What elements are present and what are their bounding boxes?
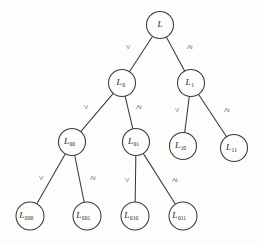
tree-node-l0: L0 (109, 70, 136, 97)
edge-label-l0-l00: < (81, 104, 91, 109)
edge-label-l1-l11: ≥ (221, 107, 231, 112)
tree-node-l: L (147, 12, 174, 39)
tree-node-l11: L11 (221, 135, 248, 162)
tree-edge-l1-l10 (185, 96, 190, 132)
tree-edge-l1-l11 (198, 94, 226, 136)
tree-node-l01: L01 (123, 129, 150, 156)
tree-edge-l0-l00 (81, 93, 114, 131)
edge-label-l0-l01: ≥ (133, 104, 143, 109)
edge-label-l01-l011: ≥ (169, 177, 179, 182)
tree-edge-l0-l01 (125, 96, 133, 129)
tree-node-l001: L001 (73, 202, 101, 230)
binary-tree-diagram: LL0L1L00L01L10L11L000L001L010L011 <≥<≥<≥… (0, 0, 262, 244)
tree-edge-l01-l010 (135, 156, 136, 203)
node-label-l: L (156, 19, 162, 29)
tree-node-l1: L1 (178, 70, 205, 97)
edge-label-l00-l001: ≥ (87, 175, 97, 180)
tree-edge-l-l0 (129, 36, 152, 71)
tree-node-l10: L10 (170, 133, 197, 160)
node-group: LL0L1L00L01L10L11L000L001L010L011 (16, 12, 248, 231)
edge-label-l-l1: ≥ (184, 44, 194, 49)
edge-label-l-l0: < (123, 44, 133, 49)
tree-edge-l00-l001 (75, 155, 85, 202)
tree-edge-l-l1 (166, 37, 184, 71)
tree-canvas: LL0L1L00L01L10L11L000L001L010L011 <≥<≥<≥… (0, 0, 262, 244)
tree-node-l00: L00 (59, 129, 86, 156)
edge-label-l00-l000: < (36, 175, 46, 180)
tree-node-l000: L000 (16, 202, 44, 230)
tree-node-l010: L010 (121, 202, 149, 230)
tree-node-l011: L011 (169, 202, 197, 230)
edge-label-l01-l010: < (122, 177, 132, 182)
edge-label-l1-l10: < (172, 107, 182, 112)
